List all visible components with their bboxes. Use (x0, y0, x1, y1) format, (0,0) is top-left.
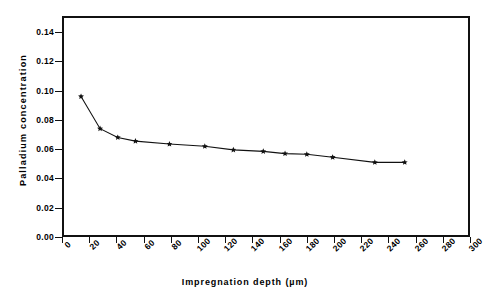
data-point-marker (202, 143, 208, 149)
data-point-marker (304, 151, 310, 157)
y-axis-title: Palladium concentration (18, 25, 28, 215)
data-point-marker (230, 147, 236, 153)
data-point-marker (97, 126, 103, 132)
data-markers (78, 93, 408, 164)
data-point-marker (115, 134, 121, 140)
data-point-marker (330, 154, 336, 160)
chart-figure: 0.000.020.040.060.080.100.120.14 0204060… (0, 0, 490, 298)
data-point-marker (166, 141, 172, 147)
data-series-layer (0, 0, 490, 298)
data-point-marker (282, 150, 288, 156)
x-axis-title: Impregnation depth (µm) (0, 277, 490, 287)
data-point-marker (132, 138, 138, 144)
data-point-marker (260, 148, 266, 154)
data-point-marker (372, 159, 378, 165)
data-line (81, 97, 405, 163)
data-point-marker (78, 93, 84, 99)
data-point-marker (402, 159, 408, 165)
